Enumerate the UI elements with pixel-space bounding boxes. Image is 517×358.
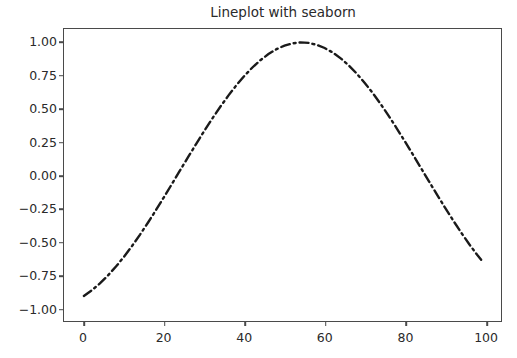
x-tick-label: 60	[295, 330, 355, 345]
y-tick-mark	[59, 309, 64, 311]
y-tick-label: −0.75	[5, 268, 57, 283]
x-axis-tick-labels: 020406080100	[63, 330, 502, 350]
x-tick-mark	[83, 321, 85, 326]
figure-canvas: Lineplot with seaborn 1.000.750.500.250.…	[0, 0, 517, 358]
x-tick-mark	[164, 321, 166, 326]
y-tick-label: 0.50	[5, 101, 57, 116]
y-tick-mark	[59, 142, 64, 144]
x-tick-label: 40	[214, 330, 274, 345]
x-tick-label: 100	[456, 330, 516, 345]
y-tick-label: 0.00	[5, 168, 57, 183]
x-tick-mark	[244, 321, 246, 326]
y-tick-label: 0.25	[5, 134, 57, 149]
y-tick-label: −0.50	[5, 234, 57, 249]
x-tick-label: 20	[134, 330, 194, 345]
y-tick-mark	[59, 42, 64, 44]
y-tick-label: 0.75	[5, 67, 57, 82]
x-tick-label: 0	[53, 330, 113, 345]
y-tick-mark	[59, 175, 64, 177]
x-tick-mark	[486, 321, 488, 326]
chart-title: Lineplot with seaborn	[63, 4, 503, 20]
y-tick-mark	[59, 275, 64, 277]
y-tick-label: −1.00	[5, 301, 57, 316]
x-tick-mark	[406, 321, 408, 326]
y-axis-tick-labels: 1.000.750.500.250.00−0.25−0.50−0.75−1.00	[0, 28, 57, 322]
x-tick-label: 80	[375, 330, 435, 345]
y-tick-label: 1.00	[5, 34, 57, 49]
x-tick-mark	[325, 321, 327, 326]
line-series-sine-wave	[64, 29, 501, 321]
y-tick-mark	[59, 108, 64, 110]
y-tick-mark	[59, 75, 64, 77]
y-tick-label: −0.25	[5, 201, 57, 216]
y-tick-mark	[59, 209, 64, 211]
plot-area	[63, 28, 502, 322]
y-tick-mark	[59, 242, 64, 244]
